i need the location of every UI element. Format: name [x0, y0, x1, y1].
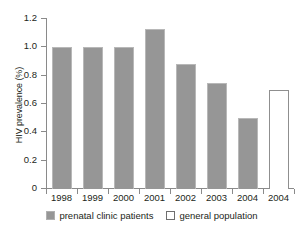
bar: [52, 47, 72, 189]
x-tick-label: 2000: [108, 192, 139, 203]
bar: [145, 29, 165, 189]
y-tick-label: 0.8: [24, 69, 37, 80]
x-tick-label: 2003: [201, 192, 232, 203]
bar: [114, 47, 134, 189]
y-tick-label: 1.0: [24, 40, 37, 51]
y-tick-label: 0.4: [24, 125, 37, 136]
bar: [238, 118, 258, 189]
y-tick-label: 0.2: [24, 154, 37, 165]
x-tick-label: 1998: [46, 192, 77, 203]
y-tick-label: 1.2: [24, 12, 37, 23]
legend-label: general population: [179, 210, 257, 221]
plot-area: 00.20.40.60.81.01.2: [46, 19, 294, 189]
x-tick-label: 2004: [263, 192, 294, 203]
y-tick-label: 0: [32, 182, 37, 193]
bar: [83, 47, 103, 189]
x-tick: [294, 189, 295, 194]
x-tick-label: 1999: [77, 192, 108, 203]
bar-series: [46, 19, 294, 189]
y-tick-label: 0.6: [24, 97, 37, 108]
legend-item: general population: [166, 210, 257, 221]
x-tick-label: 2002: [170, 192, 201, 203]
legend-label: prenatal clinic patients: [59, 210, 153, 221]
chart-legend: prenatal clinic patientsgeneral populati…: [0, 210, 304, 221]
bar: [207, 83, 227, 189]
x-axis-tick-labels: 19981999200020012002200320042004: [46, 192, 294, 206]
bar: [269, 90, 289, 189]
legend-item: prenatal clinic patients: [46, 210, 153, 221]
legend-swatch-icon: [46, 211, 55, 220]
bar: [176, 64, 196, 189]
legend-swatch-icon: [166, 211, 175, 220]
x-tick-label: 2001: [139, 192, 170, 203]
y-axis-label: HIV prevalence (%): [14, 30, 24, 180]
hiv-prevalence-bar-chart: HIV prevalence (%) 00.20.40.60.81.01.2 1…: [0, 0, 304, 233]
x-tick-label: 2004: [232, 192, 263, 203]
